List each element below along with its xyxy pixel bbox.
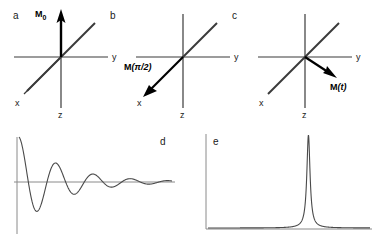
panel-a: a y z x M0 xyxy=(13,9,117,120)
panel-a-magnetization-vector xyxy=(57,9,66,57)
panel-c-label-z: z xyxy=(302,110,307,120)
panel-b-vector-shaft xyxy=(150,57,183,90)
panel-d-letter: d xyxy=(160,136,166,147)
panel-d-fid-curve xyxy=(19,137,172,211)
panel-a-diagonal-lower xyxy=(27,57,61,91)
panel-a-label-x: x xyxy=(15,98,20,108)
panel-d: d xyxy=(14,136,175,234)
panel-a-label-z: z xyxy=(58,110,63,120)
panel-e-spectrum-curve xyxy=(208,135,370,228)
panel-c-vector-label: M(t) xyxy=(330,82,347,92)
panel-a-diagonal xyxy=(61,23,95,57)
panel-c: c y z x M(t) xyxy=(232,10,361,120)
panel-e-letter: e xyxy=(213,136,219,147)
panel-c-label-y: y xyxy=(356,52,361,62)
panel-b-label-y: y xyxy=(234,52,239,62)
panel-c-magnetization-vector xyxy=(305,57,337,78)
nmr-figure: a y z x M0 b y z x M( xyxy=(0,0,376,241)
panel-b-letter: b xyxy=(110,10,116,21)
panel-b-diagonal-upper xyxy=(183,23,217,57)
panel-c-label-x: x xyxy=(259,98,264,108)
panel-c-vector-head xyxy=(323,66,337,78)
panel-a-letter: a xyxy=(13,10,19,21)
panel-a-label-y: y xyxy=(112,52,117,62)
panel-b-label-x: x xyxy=(137,98,142,108)
panel-a-vector-label: M0 xyxy=(35,9,47,21)
panel-c-letter: c xyxy=(232,10,237,21)
panel-b: b y z x M(π/2) xyxy=(110,10,239,120)
panel-b-vector-head xyxy=(143,85,157,97)
panel-c-diagonal xyxy=(268,23,339,94)
panel-b-vector-label: M(π/2) xyxy=(124,62,151,72)
panel-e: e xyxy=(206,134,372,229)
panel-b-label-z: z xyxy=(180,110,185,120)
panel-c-vector-shaft xyxy=(305,57,328,72)
